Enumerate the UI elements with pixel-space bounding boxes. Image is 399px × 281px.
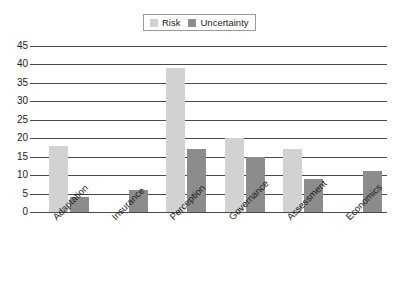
y-axis-tick — [30, 175, 36, 176]
legend-entry-uncertainty: Uncertainty — [188, 18, 248, 28]
gridline — [36, 194, 387, 195]
y-axis-tick — [30, 138, 36, 139]
y-axis-tick-label: 40 — [17, 59, 28, 69]
gridline — [36, 83, 387, 84]
legend-entry-risk: Risk — [150, 18, 180, 28]
chart-legend: Risk Uncertainty — [143, 14, 256, 31]
legend-label-uncertainty: Uncertainty — [200, 18, 248, 28]
gridline — [36, 157, 387, 158]
legend-swatch-risk — [150, 19, 158, 27]
y-axis-tick — [30, 83, 36, 84]
y-axis-tick-label: 35 — [17, 78, 28, 88]
y-axis-tick-label: 25 — [17, 115, 28, 125]
gridline — [36, 120, 387, 121]
y-axis-labels: 051015202530354045 — [0, 46, 28, 213]
bar — [166, 68, 185, 212]
y-axis-tick-label: 15 — [17, 152, 28, 162]
x-axis-labels: AdaptationInsurancePerceptionGovernanceA… — [36, 215, 387, 281]
y-axis-tick-label: 45 — [17, 41, 28, 51]
gridline — [36, 138, 387, 139]
y-axis-tick — [30, 120, 36, 121]
gridline — [36, 175, 387, 176]
gridline — [36, 46, 387, 47]
y-axis-tick — [30, 212, 36, 213]
y-axis-tick-label: 20 — [17, 133, 28, 143]
y-axis-tick-label: 10 — [17, 170, 28, 180]
y-axis-tick — [30, 46, 36, 47]
y-axis-tick — [30, 101, 36, 102]
bar-chart: Risk Uncertainty 051015202530354045 Adap… — [0, 0, 399, 281]
y-axis-tick — [30, 157, 36, 158]
y-axis-tick — [30, 64, 36, 65]
y-axis-tick-label: 30 — [17, 96, 28, 106]
gridline — [36, 101, 387, 102]
legend-swatch-uncertainty — [188, 19, 196, 27]
legend-label-risk: Risk — [162, 18, 180, 28]
gridline — [36, 212, 387, 213]
gridline — [36, 64, 387, 65]
y-axis-tick-label: 0 — [22, 207, 28, 217]
y-axis-tick — [30, 194, 36, 195]
y-axis-tick-label: 5 — [22, 189, 28, 199]
